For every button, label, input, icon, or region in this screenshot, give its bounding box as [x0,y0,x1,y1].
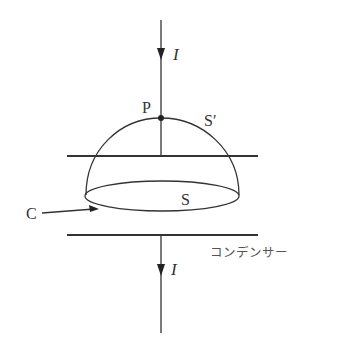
flat-surface-ellipse [85,181,239,211]
curve-pointer-line [42,209,94,213]
dome-surface-label: S′ [204,112,216,129]
point-label: P [142,99,151,116]
point-p-dot [158,115,164,121]
curve-label: C [26,205,37,222]
current-label-bottom: I [170,260,178,279]
capacitor-label: コンデンサー [210,245,288,260]
current-arrow-top-icon [157,48,165,60]
flat-surface-label: S [181,191,190,208]
current-label-top: I [172,45,180,64]
current-arrow-bottom-icon [157,264,165,276]
curve-pointer-arrowhead-icon [89,205,99,212]
capacitor-diagram: I I P S′ S C コンデンサー [0,0,344,355]
